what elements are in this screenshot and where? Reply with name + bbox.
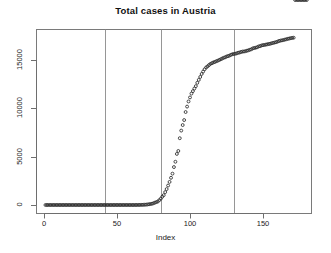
data-point — [175, 152, 178, 155]
data-point — [172, 166, 175, 169]
data-point — [186, 105, 189, 108]
data-point — [177, 150, 180, 153]
chart-canvas — [0, 0, 331, 253]
vertical-reference-lines — [106, 30, 235, 214]
data-point — [199, 76, 202, 79]
y-tick-label: 15000 — [15, 43, 24, 77]
data-point — [187, 100, 190, 103]
data-point — [184, 111, 187, 114]
y-tick-label: 10000 — [15, 91, 24, 125]
x-tick-label: 100 — [175, 219, 205, 228]
data-point — [165, 188, 168, 191]
data-point — [183, 119, 186, 122]
x-tick-label: 150 — [248, 219, 278, 228]
x-tick-label: 50 — [102, 219, 132, 228]
data-point — [174, 160, 177, 163]
data-point — [194, 85, 197, 88]
data-point — [164, 191, 167, 194]
chart-root: Total cases in Austria 050100150 0500010… — [0, 0, 331, 253]
y-tick-label: 0 — [15, 188, 24, 222]
data-point — [170, 176, 173, 179]
data-point — [168, 180, 171, 183]
data-point — [171, 172, 174, 175]
data-point — [197, 78, 200, 81]
plot-frame — [37, 30, 312, 214]
x-axis-label: Index — [0, 233, 331, 242]
y-tick-label: 5000 — [15, 139, 24, 173]
data-point — [167, 184, 170, 187]
data-point — [189, 96, 192, 99]
y-axis-ticks — [31, 60, 37, 206]
data-point — [178, 137, 181, 140]
x-axis-ticks — [44, 214, 264, 219]
data-points — [44, 0, 308, 206]
data-point — [196, 81, 199, 84]
x-tick-label: 0 — [29, 219, 59, 228]
data-point — [181, 124, 184, 127]
data-point — [180, 129, 183, 132]
